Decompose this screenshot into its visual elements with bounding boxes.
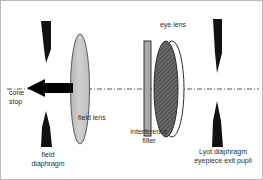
cone-stop-arrow	[27, 79, 73, 97]
optical-diagram-figure: cone stop field lens field diaphragm eye…	[0, 0, 263, 180]
eye-lens-label: eye lens	[152, 21, 194, 30]
field-diaphragm-label: field diaphragm	[20, 151, 76, 168]
field-diaphragm-upper-blade	[41, 21, 51, 63]
interference-filter	[144, 41, 151, 136]
cone-stop-label: cone stop	[9, 89, 24, 106]
field-diaphragm-lower-blade	[41, 111, 52, 147]
lyot-diaphragm-label: Lyot diaphragm eyepiece exit pupil	[184, 148, 262, 165]
interference-filter-label: interference filter	[120, 128, 178, 145]
eye-lens	[154, 41, 178, 137]
field-lens-label: field lens	[78, 114, 106, 123]
field-lens	[71, 34, 90, 144]
lyot-diaphragm-upper-blade	[213, 19, 222, 73]
lyot-diaphragm-lower-blade	[212, 101, 223, 147]
